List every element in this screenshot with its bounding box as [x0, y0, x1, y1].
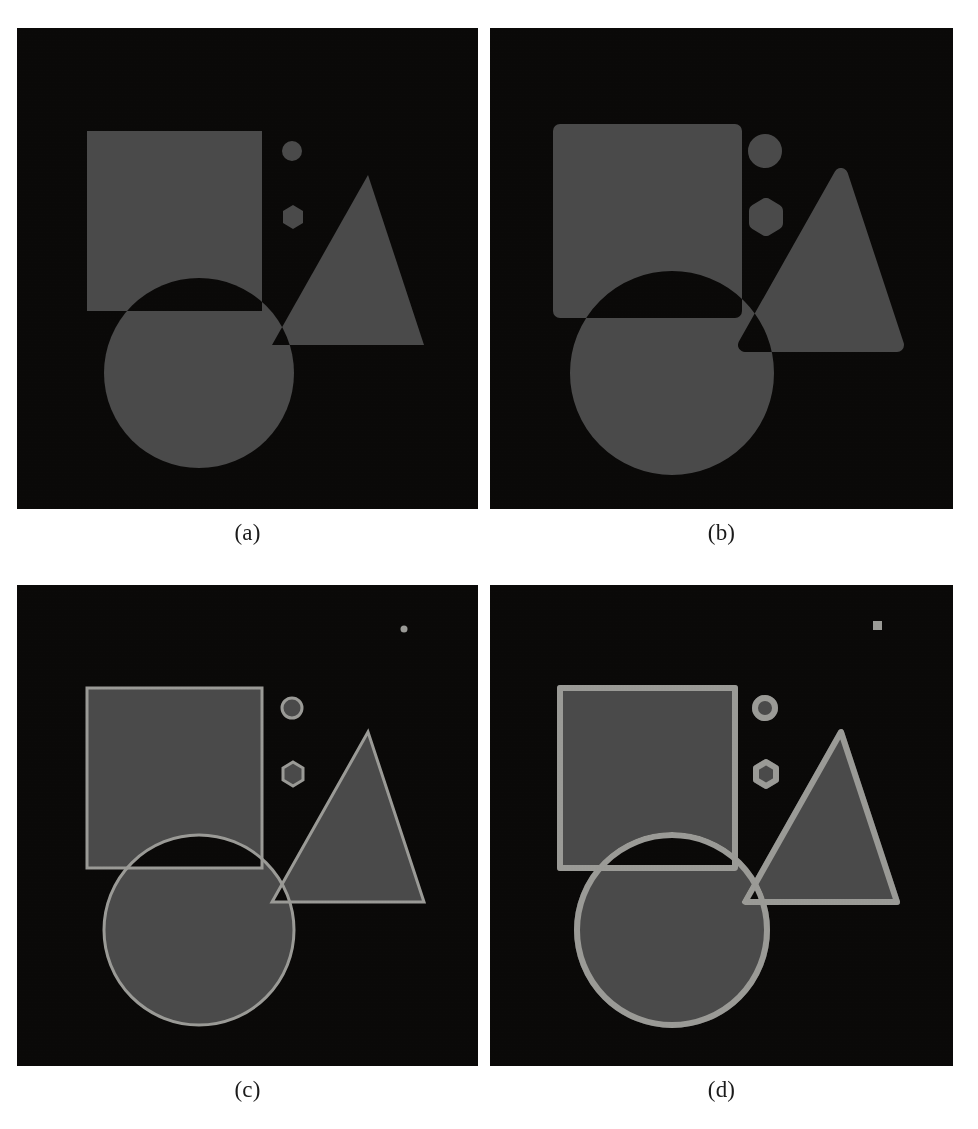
panel-d: [490, 585, 953, 1066]
figure-grid: (a) (b) (c) (d): [0, 0, 978, 1129]
caption-b: (b): [490, 520, 953, 546]
panel-d-canvas: [490, 585, 953, 1066]
marker-square-icon: [873, 621, 882, 630]
panel-b: [490, 28, 953, 509]
panel-a-canvas: [17, 28, 478, 509]
panel-a-shapes: [17, 28, 478, 509]
panel-b-shapes: [490, 28, 953, 509]
marker-dot-icon: [401, 626, 408, 633]
caption-d: (d): [490, 1077, 953, 1103]
panel-c-canvas: [17, 585, 478, 1066]
panel-c: [17, 585, 478, 1066]
caption-a: (a): [17, 520, 478, 546]
caption-c: (c): [17, 1077, 478, 1103]
panel-a: [17, 28, 478, 509]
panel-b-canvas: [490, 28, 953, 509]
